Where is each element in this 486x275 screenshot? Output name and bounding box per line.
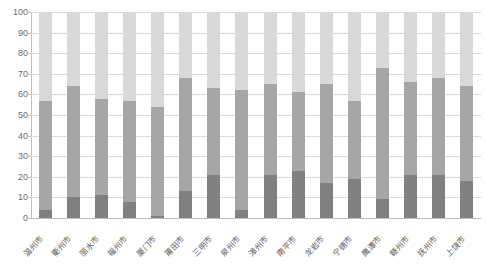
bar-segment[interactable] (95, 195, 108, 218)
bar-segment[interactable] (151, 216, 164, 218)
bar-stack[interactable] (292, 12, 305, 218)
bar-stack[interactable] (179, 12, 192, 218)
bar-stack[interactable] (151, 12, 164, 218)
plot-area (31, 12, 481, 218)
bar-stack[interactable] (235, 12, 248, 218)
bar-segment[interactable] (151, 12, 164, 107)
bar-segment[interactable] (292, 92, 305, 170)
bar-segment[interactable] (39, 12, 52, 101)
y-axis-tick-mark (27, 33, 31, 34)
y-axis: 0102030405060708090100 (0, 0, 28, 230)
bar-segment[interactable] (123, 12, 136, 101)
bar-segment[interactable] (39, 210, 52, 218)
bar-segment[interactable] (404, 12, 417, 82)
y-axis-tick-mark (27, 218, 31, 219)
bar-segment[interactable] (264, 12, 277, 84)
bar-stack[interactable] (404, 12, 417, 218)
bar-segment[interactable] (348, 12, 361, 101)
bar-segment[interactable] (179, 191, 192, 218)
bar-segment[interactable] (67, 86, 80, 197)
y-axis-tick-mark (27, 115, 31, 116)
x-axis-category-label: 厦门市 (135, 235, 158, 258)
bar-series-container (31, 12, 481, 218)
bar-segment[interactable] (207, 12, 220, 88)
bar-segment[interactable] (348, 101, 361, 179)
x-axis-category-label: 三明市 (191, 235, 214, 258)
bar-segment[interactable] (95, 99, 108, 196)
x-axis-category-label: 福州市 (107, 235, 130, 258)
x-axis-category-label: 龙岩市 (303, 235, 326, 258)
bar-segment[interactable] (123, 202, 136, 218)
x-axis-category-label: 温州市 (22, 235, 45, 258)
bar-segment[interactable] (67, 12, 80, 86)
x-axis-category-label: 宁德市 (332, 235, 355, 258)
x-axis-category-label: 漳州市 (247, 235, 270, 258)
bar-segment[interactable] (432, 78, 445, 175)
bar-segment[interactable] (320, 12, 333, 84)
bar-segment[interactable] (404, 175, 417, 218)
y-axis-tick-mark (27, 177, 31, 178)
bar-segment[interactable] (292, 12, 305, 92)
bar-segment[interactable] (235, 12, 248, 90)
bar-segment[interactable] (151, 107, 164, 216)
y-axis-tick-label: 100 (13, 8, 28, 17)
y-axis-tick-mark (27, 53, 31, 54)
bar-segment[interactable] (376, 12, 389, 68)
bar-segment[interactable] (348, 179, 361, 218)
bar-segment[interactable] (320, 183, 333, 218)
x-axis-category-label: 上饶市 (444, 235, 467, 258)
y-axis-tick-mark (27, 197, 31, 198)
bar-segment[interactable] (460, 12, 473, 86)
bar-segment[interactable] (376, 199, 389, 218)
bar-segment[interactable] (264, 84, 277, 175)
x-axis-category-label: 丽水市 (78, 235, 101, 258)
bar-stack[interactable] (432, 12, 445, 218)
bar-segment[interactable] (67, 197, 80, 218)
bar-segment[interactable] (179, 78, 192, 191)
x-axis-category-label: 赣州市 (388, 235, 411, 258)
y-axis-tick-mark (27, 94, 31, 95)
bar-segment[interactable] (207, 88, 220, 175)
x-axis-category-label: 南平市 (275, 235, 298, 258)
bar-stack[interactable] (376, 12, 389, 218)
x-axis-line (31, 218, 481, 219)
bar-segment[interactable] (95, 12, 108, 99)
bar-segment[interactable] (376, 68, 389, 200)
bar-stack[interactable] (348, 12, 361, 218)
bar-segment[interactable] (292, 171, 305, 218)
y-axis-tick-mark (27, 156, 31, 157)
bar-segment[interactable] (404, 82, 417, 175)
bar-segment[interactable] (320, 84, 333, 183)
bar-segment[interactable] (207, 175, 220, 218)
y-axis-tick-mark (27, 74, 31, 75)
bar-segment[interactable] (39, 101, 52, 210)
stacked-bar-chart: 0102030405060708090100 温州市衢州市丽水市福州市厦门市莆田… (0, 0, 486, 275)
bar-stack[interactable] (39, 12, 52, 218)
x-axis-category-label: 衢州市 (50, 235, 73, 258)
bar-stack[interactable] (67, 12, 80, 218)
bar-stack[interactable] (207, 12, 220, 218)
y-axis-tick-mark (27, 12, 31, 13)
bar-segment[interactable] (432, 175, 445, 218)
x-axis-category-labels: 温州市衢州市丽水市福州市厦门市莆田市三明市泉州市漳州市南平市龙岩市宁德市鹰潭市赣… (31, 220, 481, 275)
bar-segment[interactable] (179, 12, 192, 78)
bar-segment[interactable] (460, 181, 473, 218)
bar-segment[interactable] (432, 12, 445, 78)
bar-segment[interactable] (460, 86, 473, 181)
x-axis-category-label: 抚州市 (416, 235, 439, 258)
x-axis-category-label: 鹰潭市 (360, 235, 383, 258)
bar-segment[interactable] (264, 175, 277, 218)
x-axis-category-label: 泉州市 (219, 235, 242, 258)
y-axis-tick-mark (27, 136, 31, 137)
bar-stack[interactable] (264, 12, 277, 218)
bar-stack[interactable] (123, 12, 136, 218)
bar-stack[interactable] (320, 12, 333, 218)
x-axis-category-label: 莆田市 (163, 235, 186, 258)
bar-segment[interactable] (235, 210, 248, 218)
bar-stack[interactable] (460, 12, 473, 218)
bar-segment[interactable] (123, 101, 136, 202)
bar-segment[interactable] (235, 90, 248, 209)
bar-stack[interactable] (95, 12, 108, 218)
